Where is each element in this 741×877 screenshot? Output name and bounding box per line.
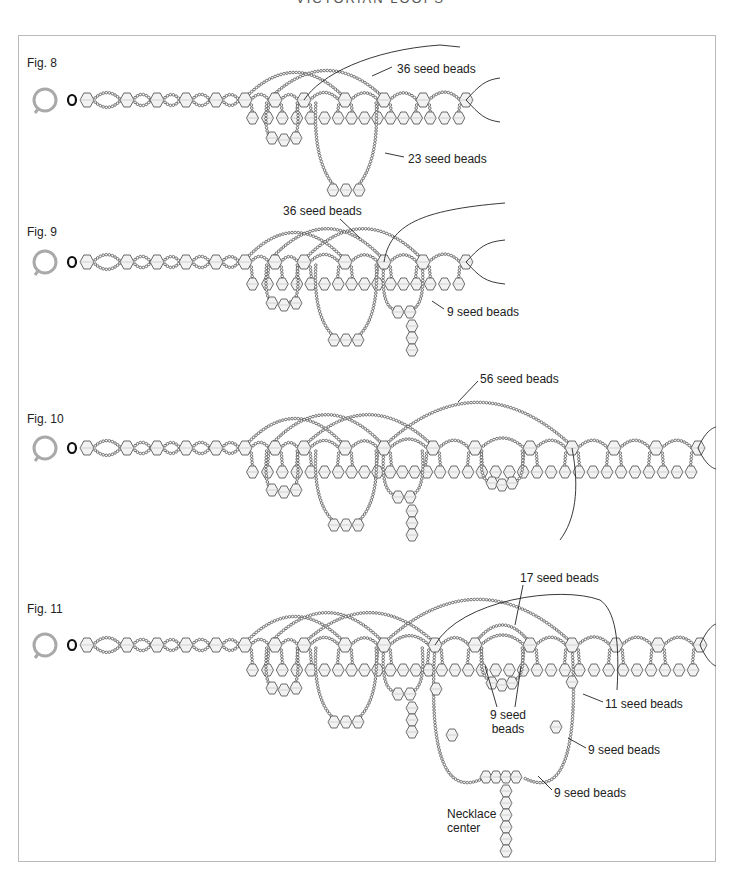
hanging-bicone	[671, 466, 683, 478]
hanging-bicone	[673, 664, 685, 676]
drop-bicone	[327, 184, 339, 196]
hanging-bicone	[573, 664, 585, 676]
callout-label: 11 seed beads	[605, 697, 683, 711]
hanging-bicone	[631, 664, 643, 676]
chain-bicone	[120, 93, 134, 107]
hanging-bicone	[685, 466, 697, 478]
drop-bicone	[278, 486, 290, 498]
hanging-bicone	[332, 466, 344, 478]
necklace-center-label: Necklacecenter	[447, 807, 496, 835]
hanging-bicone	[439, 112, 451, 124]
pendant-bicone	[406, 505, 418, 517]
loop-bicone	[550, 721, 562, 733]
hanging-bicone	[346, 278, 358, 290]
chain-bicone	[209, 638, 223, 652]
hanging-bicone	[247, 466, 259, 478]
hanging-bicone	[588, 664, 600, 676]
thread-line	[466, 262, 505, 284]
hanging-bicone	[462, 466, 474, 478]
hanging-bicone	[346, 664, 358, 676]
chain-bicone	[120, 255, 134, 269]
hanging-bicone	[434, 466, 446, 478]
drop-bicone	[290, 682, 302, 694]
pendant-bicone	[406, 702, 418, 714]
hanging-bicone	[319, 112, 331, 124]
hanging-bicone	[453, 112, 465, 124]
jump-ring-icon	[68, 257, 76, 267]
hanging-bicone	[645, 664, 657, 676]
hanging-bicone	[247, 664, 259, 676]
pendant-bicone	[406, 529, 418, 541]
chain-bicone	[150, 441, 164, 455]
hanging-bicone	[398, 278, 410, 290]
hanging-bicone	[545, 466, 557, 478]
figure-label: Fig. 10	[27, 412, 64, 426]
hanging-bicone	[559, 466, 571, 478]
hanging-bicone	[332, 112, 344, 124]
hanging-bicone	[346, 466, 358, 478]
chain-bicone	[150, 255, 164, 269]
hanging-bicone	[276, 278, 288, 290]
hanging-bicone	[359, 278, 371, 290]
drop-bicone	[278, 299, 290, 311]
callout-leader	[385, 153, 404, 157]
callout-leader	[515, 585, 523, 625]
hanging-bicone	[385, 112, 397, 124]
fig11-figure	[34, 585, 716, 857]
pendant-bicone	[406, 320, 418, 332]
drop-bicone	[290, 297, 302, 309]
hanging-bicone	[409, 466, 421, 478]
drop-bicone	[496, 479, 508, 491]
hanging-bicone	[531, 664, 543, 676]
jump-ring-icon	[68, 443, 76, 453]
drop-bicone	[328, 519, 340, 531]
hanging-bicone	[453, 278, 465, 290]
hanging-bicone	[396, 466, 408, 478]
hanging-bicone	[384, 664, 396, 676]
hanging-bicone	[319, 664, 331, 676]
hanging-bicone	[385, 278, 397, 290]
clasp-ring-icon	[34, 89, 56, 111]
drop-bicone	[290, 132, 302, 144]
hanging-bicone	[397, 664, 409, 676]
drop-bicone	[290, 484, 302, 496]
callout-leader	[372, 67, 392, 76]
chain-bicone	[209, 255, 223, 269]
hanging-bicone	[449, 664, 461, 676]
drop-bicone	[278, 134, 290, 146]
clasp-ring-icon	[34, 437, 56, 459]
callout-label: 23 seed beads	[408, 152, 487, 166]
drop-bicone	[278, 684, 290, 696]
loop-bicone	[566, 676, 578, 688]
hanging-bicone	[411, 278, 423, 290]
hanging-bicone	[359, 664, 371, 676]
chain-bicone	[150, 638, 164, 652]
hanging-bicone	[462, 664, 474, 676]
drop-bicone	[328, 334, 340, 346]
pendant-bicone	[406, 726, 418, 738]
hanging-bicone	[424, 112, 436, 124]
hanging-bicone	[332, 278, 344, 290]
drop-bicone	[266, 682, 278, 694]
drop-bicone	[496, 679, 508, 691]
chain-bicone	[80, 441, 94, 455]
chain-bicone	[179, 638, 193, 652]
pendant-bicone	[406, 344, 418, 356]
drop-bicone	[340, 184, 352, 196]
chain-bicone	[80, 255, 94, 269]
hanging-bicone	[687, 664, 699, 676]
hanging-bicone	[439, 278, 451, 290]
hanging-bicone	[657, 466, 669, 478]
hanging-bicone	[659, 664, 671, 676]
hanging-bicone	[410, 664, 422, 676]
hanging-bicone	[503, 466, 515, 478]
chain-bicone	[179, 255, 193, 269]
clasp-ring-icon	[34, 634, 56, 656]
center-pendant-bicone	[500, 833, 512, 845]
callout-label: 36 seed beads	[397, 62, 476, 76]
hanging-bicone	[359, 112, 371, 124]
hanging-bicone	[398, 112, 410, 124]
loop-bicone	[430, 683, 442, 695]
callout-leader	[583, 694, 603, 702]
loop-bicone	[510, 771, 522, 783]
